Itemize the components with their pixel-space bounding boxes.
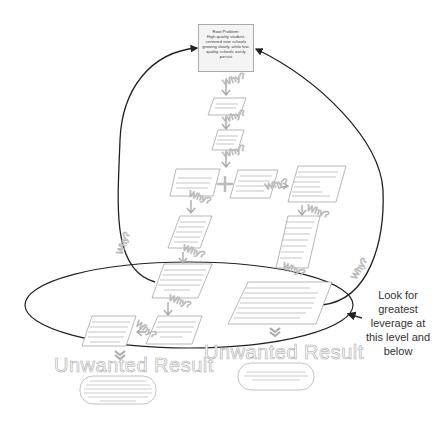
down-arrow bbox=[179, 252, 187, 263]
why-label: Why? bbox=[221, 71, 246, 88]
unwanted-result-label-left: Unwanted Result bbox=[54, 354, 214, 377]
callout-arrow bbox=[348, 314, 362, 318]
why-label: Why? bbox=[181, 242, 206, 259]
why-label: Why? bbox=[349, 256, 369, 281]
double-chevron-icon bbox=[270, 328, 280, 336]
why-label: Why? bbox=[114, 231, 131, 256]
down-arrow bbox=[164, 302, 172, 315]
chain-box-8 bbox=[152, 264, 212, 298]
chain-box-7 bbox=[276, 216, 320, 268]
down-arrow bbox=[298, 205, 306, 215]
chain-box-11 bbox=[82, 316, 136, 346]
root-problem-box: Root Problem: High-quality student-cente… bbox=[198, 24, 254, 72]
unwanted-result-box-right bbox=[238, 363, 314, 390]
unwanted-result-box-left bbox=[80, 376, 156, 404]
root-problem-text: High-quality student-centered new school… bbox=[201, 34, 251, 59]
why-label: Why? bbox=[134, 318, 159, 339]
unwanted-result-label-right: Unwanted Result bbox=[204, 341, 364, 364]
chain-box-5 bbox=[288, 166, 346, 202]
down-arrow bbox=[187, 200, 195, 213]
leverage-callout: Look for greatest leverage at this level… bbox=[362, 288, 434, 358]
plus-icon bbox=[217, 176, 233, 192]
